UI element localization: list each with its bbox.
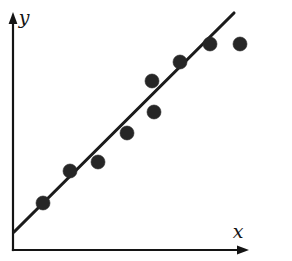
data-point — [173, 55, 187, 69]
scatter-plot-figure: y x — [0, 0, 292, 261]
data-point — [120, 126, 134, 140]
data-point — [63, 164, 77, 178]
data-point — [203, 37, 217, 51]
x-axis-arrowhead — [237, 246, 249, 255]
data-point — [145, 74, 159, 88]
data-point — [36, 196, 50, 210]
y-axis-arrowhead — [9, 12, 18, 24]
data-point — [233, 37, 247, 51]
data-point — [147, 105, 161, 119]
plot-canvas: y x — [0, 0, 292, 261]
data-point — [91, 155, 105, 169]
x-axis-label: x — [233, 220, 244, 242]
y-axis-label: y — [18, 6, 30, 28]
